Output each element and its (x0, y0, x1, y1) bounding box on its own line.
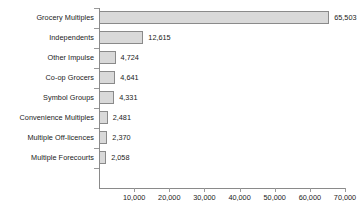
y-axis-tick (94, 48, 99, 49)
bar-row: Independents12,615 (0, 28, 360, 48)
x-axis-line (99, 188, 345, 189)
bar-row: Grocery Multiples65,503 (0, 8, 360, 28)
bar-value-label: 65,503 (334, 8, 356, 28)
category-label: Independents (49, 28, 94, 48)
x-axis-tick-label: 50,000 (264, 193, 286, 202)
bar-value-label: 4,724 (121, 48, 139, 68)
bar-row: Symbol Groups4,331 (0, 88, 360, 108)
x-axis-tick-label: 40,000 (228, 193, 250, 202)
category-label: Multiple Forecourts (31, 148, 94, 168)
bar-value-label: 2,481 (113, 108, 131, 128)
y-axis-tick (94, 128, 99, 129)
bar-row: Convenience Multiples2,481 (0, 108, 360, 128)
x-axis-tick (169, 188, 170, 192)
bar-chart: Grocery Multiples65,503Independents12,61… (0, 0, 360, 213)
x-axis-tick-label: 70,000 (334, 193, 356, 202)
category-label: Other Impulse (48, 48, 94, 68)
bar-value-label: 4,331 (119, 88, 137, 108)
x-axis-tick (345, 188, 346, 192)
bar-row: Co-op Grocers4,641 (0, 68, 360, 88)
x-axis-tick (240, 188, 241, 192)
x-axis-tick (204, 188, 205, 192)
bar-row: Other Impulse4,724 (0, 48, 360, 68)
bar-value-label: 4,641 (120, 68, 138, 88)
bar (99, 71, 115, 84)
y-axis-tick (94, 88, 99, 89)
bar-row: Multiple Forecourts2,058 (0, 148, 360, 168)
category-label: Convenience Multiples (20, 108, 94, 128)
category-label: Co-op Grocers (45, 68, 94, 88)
y-axis-tick (94, 68, 99, 69)
bar-value-label: 2,058 (111, 148, 129, 168)
bar (99, 131, 107, 144)
x-axis-tick (134, 188, 135, 192)
bar (99, 151, 106, 164)
bar (99, 111, 108, 124)
category-label: Grocery Multiples (36, 8, 94, 28)
bar-value-label: 12,615 (148, 28, 170, 48)
x-axis-tick-label: 10,000 (123, 193, 145, 202)
x-axis-tick (310, 188, 311, 192)
x-axis-tick-label: 60,000 (299, 193, 321, 202)
bar (99, 51, 116, 64)
category-label: Multiple Off-licences (27, 128, 94, 148)
y-axis-tick (94, 28, 99, 29)
bar (99, 11, 329, 24)
y-axis-tick (94, 8, 99, 9)
y-axis-tick (94, 108, 99, 109)
category-label: Symbol Groups (43, 88, 94, 108)
y-axis-tick (94, 148, 99, 149)
bar-row: Multiple Off-licences2,370 (0, 128, 360, 148)
x-axis-tick-label: 20,000 (158, 193, 180, 202)
x-axis-tick-label: 30,000 (193, 193, 215, 202)
x-axis-tick (275, 188, 276, 192)
bar-value-label: 2,370 (112, 128, 130, 148)
bar (99, 31, 143, 44)
y-axis-tick (94, 168, 99, 169)
bar (99, 91, 114, 104)
